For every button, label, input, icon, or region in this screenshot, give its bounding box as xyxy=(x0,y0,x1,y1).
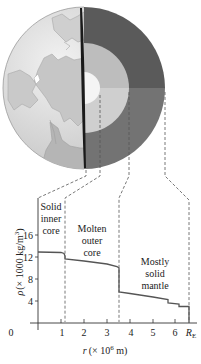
mantle-label-1: Mostly xyxy=(141,256,169,267)
x-ticks xyxy=(61,319,175,323)
x-tick-2: 2 xyxy=(82,327,87,338)
x-axis-label: r(× 106 m) xyxy=(83,344,128,357)
earth-globe xyxy=(3,7,165,172)
mantle-label-3: mantle xyxy=(141,280,169,291)
x-tick-1: 1 xyxy=(60,327,65,338)
x-tick-5: 5 xyxy=(151,327,156,338)
inner-core-label-1: Solid xyxy=(40,201,61,212)
earth-density-figure: 4 8 12 16 0 1 2 3 4 5 6 RE Solid xyxy=(0,0,201,364)
inner-core-label-3: core xyxy=(42,225,60,236)
outer-core-label-1: Molten xyxy=(78,223,107,234)
x-tick-re: RE xyxy=(185,327,196,340)
y-tick-4: 4 xyxy=(28,296,33,307)
outer-core-label-2: outer xyxy=(82,235,103,246)
y-axis-label: ρ(× 1000 kg/m3) xyxy=(13,228,26,296)
density-chart: 4 8 12 16 0 1 2 3 4 5 6 RE Solid xyxy=(9,198,198,357)
region-labels: Solid inner core Molten outer core Mostl… xyxy=(40,201,169,291)
x-tick-labels: 0 1 2 3 4 5 6 RE xyxy=(9,327,197,340)
x-tick-4: 4 xyxy=(129,327,134,338)
mantle-label-2: solid xyxy=(145,268,164,279)
x-tick-6: 6 xyxy=(173,327,178,338)
outer-core-label-3: core xyxy=(83,247,101,258)
y-tick-8: 8 xyxy=(28,274,33,285)
inner-core-label-2: inner xyxy=(41,213,62,224)
x-tick-0: 0 xyxy=(9,327,14,338)
x-tick-3: 3 xyxy=(105,327,110,338)
